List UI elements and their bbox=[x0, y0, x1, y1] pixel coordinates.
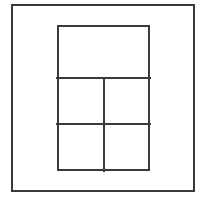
figure-canvas bbox=[0, 0, 209, 201]
line-drawing bbox=[0, 0, 209, 201]
